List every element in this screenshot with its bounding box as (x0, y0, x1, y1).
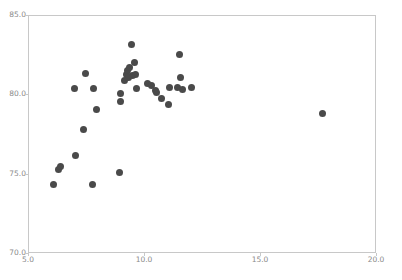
data-point (131, 59, 138, 66)
y-axis-tick-labels: 70.075.080.085.0 (0, 0, 26, 280)
y-axis-tick-label: 75.0 (9, 170, 26, 178)
data-point (117, 90, 124, 97)
data-point (133, 85, 140, 92)
x-axis-tick-label: 20.0 (368, 256, 385, 264)
data-point (188, 84, 195, 91)
x-axis-tick-labels: 5.010.015.020.0 (0, 256, 402, 276)
data-point (132, 71, 139, 78)
data-point (57, 163, 64, 170)
data-point (71, 85, 78, 92)
x-axis-tick-mark (260, 253, 261, 256)
y-axis-tick-label: 80.0 (9, 90, 26, 98)
data-point (50, 181, 57, 188)
x-axis-tick-label: 5.0 (22, 256, 34, 264)
data-point (80, 126, 87, 133)
data-point (165, 101, 172, 108)
x-axis-tick-mark (376, 253, 377, 256)
data-point (90, 85, 97, 92)
data-point (158, 95, 165, 102)
data-point (89, 181, 96, 188)
data-point (319, 110, 326, 117)
x-axis-tick-label: 10.0 (136, 256, 153, 264)
x-axis-tick-label: 15.0 (252, 256, 269, 264)
y-axis-tick-mark (25, 94, 28, 95)
data-point (177, 74, 184, 81)
data-point (82, 70, 89, 77)
data-point (166, 84, 173, 91)
data-point (128, 41, 135, 48)
y-axis-tick-mark (25, 174, 28, 175)
plot-area (28, 15, 376, 253)
scatter-plot-figure: 70.075.080.085.0 5.010.015.020.0 (0, 0, 402, 280)
data-point (93, 106, 100, 113)
data-point (179, 86, 186, 93)
data-point (117, 98, 124, 105)
x-axis-tick-mark (144, 253, 145, 256)
x-axis-tick-mark (28, 253, 29, 256)
y-axis-tick-label: 85.0 (9, 11, 26, 19)
y-axis-tick-mark (25, 15, 28, 16)
data-point (72, 152, 79, 159)
data-point (116, 169, 123, 176)
data-point (176, 51, 183, 58)
